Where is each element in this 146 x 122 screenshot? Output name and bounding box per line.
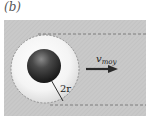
radius-label: 2r: [60, 83, 71, 94]
diagram: vmoy 2r: [0, 0, 146, 122]
particle-sphere: [27, 49, 61, 83]
